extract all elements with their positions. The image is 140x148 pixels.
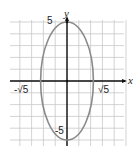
label-bottom-neg5: -5 bbox=[55, 126, 64, 136]
vertex-top bbox=[66, 21, 69, 24]
origin-point bbox=[66, 80, 68, 82]
label-top-5: 5 bbox=[47, 16, 53, 26]
y-axis-label: y bbox=[64, 8, 69, 19]
grid-lines bbox=[10, 20, 126, 146]
ellipse-graph bbox=[0, 0, 140, 148]
label-sqrt5: √5 bbox=[98, 85, 109, 95]
label-neg-sqrt5: -√5 bbox=[14, 85, 28, 95]
x-axis-label: x bbox=[128, 75, 133, 86]
